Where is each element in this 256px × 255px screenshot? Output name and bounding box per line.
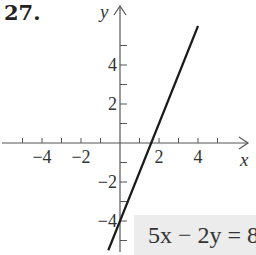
svg-text:2: 2	[155, 147, 164, 167]
svg-text:4: 4	[108, 55, 117, 75]
svg-text:4: 4	[194, 147, 203, 167]
svg-text:−2: −2	[71, 147, 90, 167]
x-axis-label: x	[239, 149, 249, 170]
svg-text:2: 2	[108, 94, 117, 114]
equation-label: 5x − 2y = 8	[148, 222, 256, 249]
y-axis-label: y	[98, 1, 109, 22]
svg-text:−4: −4	[98, 211, 117, 231]
svg-text:−2: −2	[98, 172, 117, 192]
svg-text:−4: −4	[32, 147, 51, 167]
